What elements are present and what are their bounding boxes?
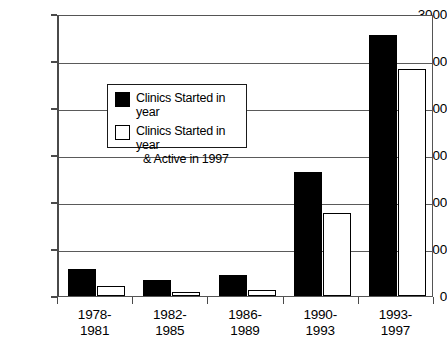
legend-label-active: Clinics Started in year & Active in 1997 bbox=[136, 124, 246, 166]
bar-active-1993-1997 bbox=[398, 69, 426, 296]
legend-label-started: Clinics Started in year bbox=[136, 91, 246, 119]
bar-started-1990-1993 bbox=[294, 172, 322, 296]
x-axis-category-label: 1986-1989 bbox=[207, 307, 282, 338]
x-axis-category-label: 1993-1997 bbox=[358, 307, 433, 338]
bar-active-1986-1989 bbox=[248, 290, 276, 296]
bar-started-1978-1981 bbox=[68, 269, 96, 296]
x-axis-tick-mark bbox=[358, 297, 359, 304]
legend-item-started: Clinics Started in year bbox=[115, 91, 246, 119]
x-axis-tick-mark bbox=[433, 297, 434, 304]
bar-active-1990-1993 bbox=[323, 213, 351, 296]
chart-legend: Clinics Started in year Clinics Started … bbox=[107, 84, 247, 148]
x-axis-tick-mark bbox=[207, 297, 208, 304]
bar-active-1978-1981 bbox=[97, 286, 125, 296]
bar-started-1993-1997 bbox=[369, 35, 397, 296]
bar-active-1982-1985 bbox=[172, 292, 200, 296]
bar-chart: 300025002000150010005000 1978-19811982-1… bbox=[0, 0, 447, 350]
legend-swatch-filled-icon bbox=[115, 92, 130, 107]
bar-started-1986-1989 bbox=[219, 275, 247, 296]
x-axis-category-label: 1978-1981 bbox=[57, 307, 132, 338]
x-axis-category-label: 1982-1985 bbox=[132, 307, 207, 338]
x-axis-tick-mark bbox=[283, 297, 284, 304]
x-axis-tick-mark bbox=[132, 297, 133, 304]
legend-item-active: Clinics Started in year & Active in 1997 bbox=[115, 124, 246, 166]
legend-swatch-hollow-icon bbox=[115, 125, 130, 140]
x-axis-tick-mark bbox=[57, 297, 58, 304]
x-axis-category-label: 1990-1993 bbox=[283, 307, 358, 338]
bar-started-1982-1985 bbox=[143, 280, 171, 296]
